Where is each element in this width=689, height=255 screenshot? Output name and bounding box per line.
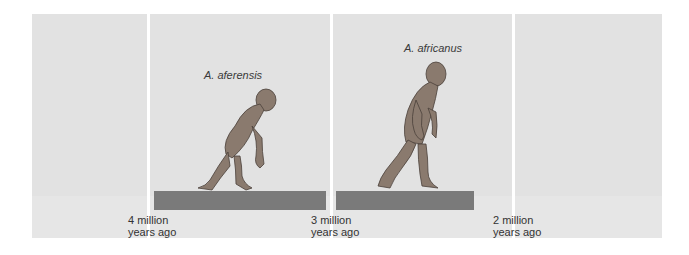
africanus-figure-icon bbox=[372, 60, 457, 192]
range-bar-africanus bbox=[336, 191, 474, 210]
tick-label-4mya-line2: years ago bbox=[128, 226, 176, 238]
tick-label-3mya-line1: 3 million bbox=[311, 214, 359, 226]
divider-3mya bbox=[330, 14, 333, 238]
aferensis-figure-icon bbox=[190, 86, 285, 192]
tick-label-2mya-line1: 2 million bbox=[493, 214, 541, 226]
range-bar-aferensis bbox=[154, 191, 326, 210]
tick-label-2mya: 2 million years ago bbox=[493, 214, 541, 238]
tick-label-3mya: 3 million years ago bbox=[311, 214, 359, 238]
species-label-africanus: A. africanus bbox=[404, 42, 462, 54]
tick-label-2mya-line2: years ago bbox=[493, 226, 541, 238]
tick-label-3mya-line2: years ago bbox=[311, 226, 359, 238]
divider-4mya bbox=[147, 14, 150, 238]
tick-label-4mya-line1: 4 million bbox=[128, 214, 176, 226]
divider-2mya bbox=[512, 14, 515, 238]
species-label-aferensis: A. aferensis bbox=[204, 69, 262, 81]
tick-label-4mya: 4 million years ago bbox=[128, 214, 176, 238]
